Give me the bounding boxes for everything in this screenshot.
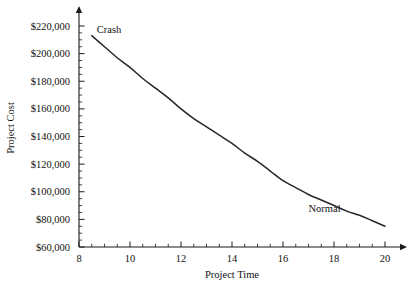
x-tick-label: 16 <box>278 253 289 264</box>
y-tick-label: $200,000 <box>31 48 70 59</box>
y-tick-label: $60,000 <box>36 242 70 253</box>
y-tick-label: $140,000 <box>31 131 70 142</box>
x-tick-label: 10 <box>125 253 136 264</box>
x-tick-label: 18 <box>329 253 340 264</box>
y-axis-tick-labels: $60,000$80,000$100,000$120,000$140,000$1… <box>31 21 70 253</box>
x-tick-label: 14 <box>227 253 238 264</box>
y-tick-label: $100,000 <box>31 186 70 197</box>
x-axis-arrow-icon <box>400 244 407 250</box>
x-axis-title: Project Time <box>205 269 259 280</box>
y-tick-label: $220,000 <box>31 21 70 32</box>
project-cost-vs-time-chart: $60,000$80,000$100,000$120,000$140,000$1… <box>0 0 412 287</box>
y-axis-arrow-icon <box>76 6 82 13</box>
annotation-crash: Crash <box>97 24 122 35</box>
x-tick-label: 20 <box>380 253 391 264</box>
y-tick-label: $120,000 <box>31 159 70 170</box>
y-axis-title: Project Cost <box>5 102 16 154</box>
curve-annotations: CrashNormal <box>97 24 341 215</box>
x-tick-label: 12 <box>176 253 187 264</box>
x-tick-label: 8 <box>76 253 81 264</box>
x-axis-tick-labels: 8101214161820 <box>76 253 390 264</box>
y-tick-label: $160,000 <box>31 103 70 114</box>
x-axis-major-ticks <box>79 242 385 248</box>
project-cost-curve <box>92 36 385 227</box>
chart-plot-area: $60,000$80,000$100,000$120,000$140,000$1… <box>0 0 412 287</box>
annotation-normal: Normal <box>309 203 341 214</box>
y-tick-label: $80,000 <box>36 214 70 225</box>
y-tick-label: $180,000 <box>31 76 70 87</box>
y-axis-major-ticks <box>79 26 85 247</box>
